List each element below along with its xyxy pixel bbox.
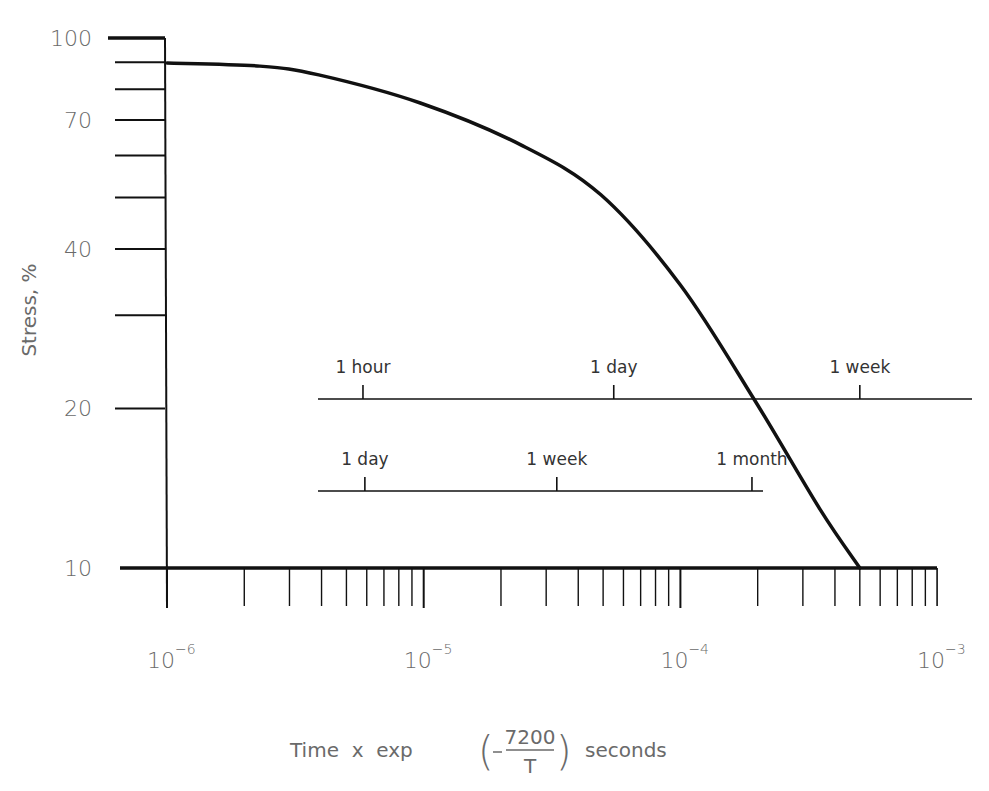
x-axis-title-denominator: T bbox=[523, 754, 537, 778]
stress-curve bbox=[167, 63, 860, 568]
y-tick-label: 100 bbox=[50, 26, 92, 51]
time-scale-label: 1 day bbox=[590, 357, 638, 377]
x-tick-label: 10−6 bbox=[147, 641, 196, 673]
stress-relaxation-chart: 10070402010 10−610−510−410−3 1 hour1 day… bbox=[0, 0, 989, 791]
time-scale-upper: 1 hour1 day1 week bbox=[318, 357, 972, 399]
y-tick-label: 10 bbox=[64, 556, 92, 581]
x-axis: 10−610−510−410−3 bbox=[120, 568, 966, 673]
time-scale-label: 1 week bbox=[829, 357, 890, 377]
x-tick-label: 10−3 bbox=[917, 641, 966, 673]
x-ticks bbox=[167, 568, 937, 608]
x-axis-title-prefix: Time x exp bbox=[289, 738, 413, 762]
x-tick-label: 10−4 bbox=[660, 641, 709, 673]
x-axis-title-numerator: 7200 bbox=[505, 725, 556, 749]
y-tick-label: 20 bbox=[64, 396, 92, 421]
x-axis-title: Time x exp ( 7200 T ) seconds bbox=[289, 725, 667, 778]
time-scale-label: 1 hour bbox=[335, 357, 390, 377]
time-scale-label: 1 day bbox=[341, 449, 389, 469]
y-axis-title: Stress, % bbox=[17, 263, 41, 356]
x-axis-title-suffix: seconds bbox=[585, 738, 667, 762]
y-tick-labels: 10070402010 bbox=[50, 26, 92, 581]
y-ticks bbox=[115, 62, 165, 408]
time-scale-label: 1 week bbox=[526, 449, 587, 469]
paren-right: ) bbox=[556, 728, 572, 774]
time-scale-lower: 1 day1 week1 month bbox=[318, 449, 788, 491]
y-axis: 10070402010 bbox=[50, 26, 167, 608]
x-tick-label: 10−5 bbox=[404, 641, 453, 673]
paren-left: ( bbox=[478, 728, 494, 774]
time-scale-label: 1 month bbox=[716, 449, 787, 469]
y-tick-label: 40 bbox=[64, 237, 92, 262]
x-tick-labels: 10−610−510−410−3 bbox=[147, 641, 966, 673]
y-tick-label: 70 bbox=[64, 108, 92, 133]
